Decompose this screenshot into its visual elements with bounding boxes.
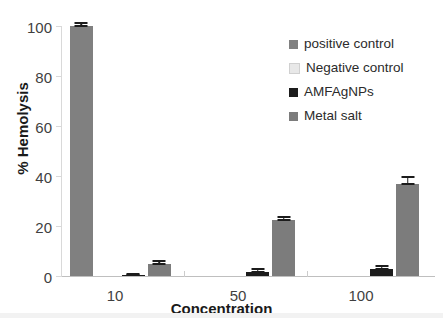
- bar-amfagnps-100: [370, 269, 393, 276]
- legend-swatch-amfagnps: [289, 88, 298, 97]
- error-bar-cap-top: [401, 176, 414, 178]
- error-bar-cap-bottom: [375, 268, 388, 270]
- legend-swatch-positive-control: [289, 40, 298, 49]
- legend-label-positive-control: positive control: [304, 37, 394, 51]
- x-axis-line: [61, 276, 435, 277]
- error-bar-cap-top: [75, 22, 88, 24]
- legend-swatch-metal-salt: [289, 112, 298, 121]
- bar-amfagnps-10: [122, 275, 145, 276]
- bar-positive-control-10: [70, 26, 93, 276]
- y-tick-mark-0: [56, 276, 62, 277]
- hemolysis-bar-chart: 100 80 60 40 20 0 % Hemolysis 10 50 100 …: [0, 0, 443, 326]
- bottom-strip: [0, 313, 443, 318]
- legend-label-amfagnps: AMFAgNPs: [304, 85, 374, 99]
- y-tick-0: 0: [6, 270, 52, 285]
- error-bar-cap-bottom: [127, 274, 140, 276]
- legend-item-metal-salt: Metal salt: [289, 104, 439, 128]
- chart-legend: positive control Negative control AMFAgN…: [289, 32, 439, 128]
- legend-item-amfagnps: AMFAgNPs: [289, 80, 439, 104]
- legend-item-negative-control: Negative control: [289, 56, 439, 80]
- y-axis-title: % Hemolysis: [14, 49, 31, 209]
- legend-label-negative-control: Negative control: [306, 61, 404, 75]
- y-tick-100: 100: [6, 20, 52, 35]
- error-bar-cap-bottom: [251, 271, 264, 273]
- error-bar-cap-bottom: [75, 25, 88, 27]
- legend-item-positive-control: positive control: [289, 32, 439, 56]
- bar-metal-salt-10: [148, 264, 171, 277]
- bar-metal-salt-100: [396, 184, 419, 277]
- error-bar-cap-top: [375, 265, 388, 267]
- error-bar-cap-bottom: [153, 263, 166, 265]
- legend-swatch-negative-control: [289, 63, 300, 74]
- bar-amfagnps-50: [246, 272, 269, 277]
- legend-label-metal-salt: Metal salt: [304, 109, 362, 123]
- error-bar-cap-bottom: [401, 183, 414, 185]
- error-bar-cap-bottom: [277, 219, 290, 221]
- y-tick-20: 20: [6, 220, 52, 235]
- bar-metal-salt-50: [272, 220, 295, 276]
